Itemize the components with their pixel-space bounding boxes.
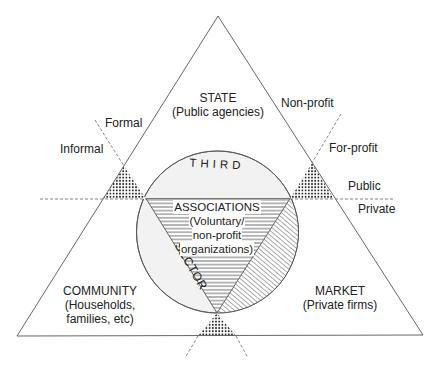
third-label: THIRD — [189, 156, 246, 173]
associations-line-1: ASSOCIATIONS — [173, 200, 260, 214]
associations-label: ASSOCIATIONS (Voluntary/ non-profit orga… — [167, 200, 267, 256]
for-profit-label: For-profit — [329, 141, 378, 155]
market-label: MARKET (Private firms) — [290, 284, 390, 312]
state-name: STATE — [168, 91, 268, 105]
community-sub2: families, etc) — [50, 312, 150, 326]
third-sector-diagram: STATE (Public agencies) COMMUNITY (House… — [0, 0, 435, 378]
informal-label: Informal — [60, 142, 103, 156]
state-label: STATE (Public agencies) — [168, 91, 268, 119]
private-label: Private — [358, 202, 395, 216]
public-label: Public — [348, 179, 381, 193]
market-name: MARKET — [290, 284, 390, 298]
associations-line-3: non-profit — [192, 228, 243, 242]
associations-line-4: organizations) — [180, 242, 254, 256]
formal-label: Formal — [105, 116, 142, 130]
community-name: COMMUNITY — [50, 284, 150, 298]
community-label: COMMUNITY (Households, families, etc) — [50, 284, 150, 326]
state-sub: (Public agencies) — [168, 105, 268, 119]
market-sub: (Private firms) — [290, 298, 390, 312]
non-profit-label: Non-profit — [281, 96, 334, 110]
community-sub1: (Households, — [50, 298, 150, 312]
associations-line-2: (Voluntary/ — [189, 214, 246, 228]
